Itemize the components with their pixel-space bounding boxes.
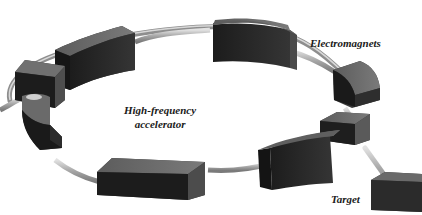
accelerator-label-line1: High-frequency (124, 103, 196, 117)
electromagnet-top-left (55, 26, 135, 90)
accelerator-label-line2: accelerator (124, 117, 196, 131)
electromagnet-top-center (213, 18, 297, 70)
electromagnets-label: Electromagnets (310, 36, 381, 50)
target (371, 172, 422, 212)
target-label: Target (331, 192, 360, 206)
high-frequency-accelerator (97, 158, 205, 200)
accelerator-diagram (0, 0, 422, 215)
electromagnet-lower-right (258, 130, 340, 190)
accelerator-label: High-frequency accelerator (124, 103, 196, 132)
electromagnet-right (333, 61, 380, 108)
